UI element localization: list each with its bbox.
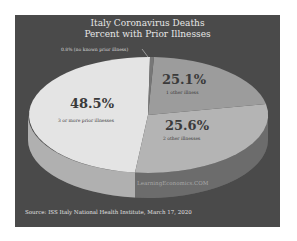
pie-top [29, 57, 268, 173]
pct-2-illnesses: 25.6% [165, 118, 209, 133]
label-1-illness: 1 other illness [166, 90, 198, 95]
watermark: LearningEconomics.COM [137, 180, 208, 186]
note-no-prior-illness: 0.8% (no known prior illness) [61, 47, 128, 52]
source-note: Source: ISS Italy National Health Instit… [25, 209, 192, 215]
label-3-or-more: 3 or more prior illnesses [58, 118, 114, 123]
label-2-illnesses: 2 other illnesses [163, 136, 200, 141]
pct-1-illness: 25.1% [162, 72, 206, 87]
pie-chart [0, 0, 297, 241]
pct-3-or-more: 48.5% [70, 96, 114, 111]
